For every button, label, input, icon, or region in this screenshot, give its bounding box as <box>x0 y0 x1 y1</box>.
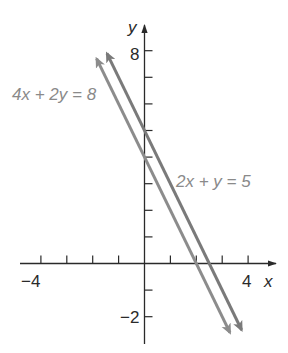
y-tick-label-neg2: −2 <box>120 308 139 327</box>
equation-label-2x-y-5: 2x + y = 5 <box>175 172 251 191</box>
x-axis-label: x <box>263 272 273 291</box>
equation-label-4x-2y-8: 4x + 2y = 8 <box>12 85 97 104</box>
y-tick-label-8: 8 <box>130 45 139 64</box>
y-axis-ticks <box>145 51 153 317</box>
series-line-2 <box>107 53 242 330</box>
x-tick-label-neg4: −4 <box>21 272 40 291</box>
y-axis-label: y <box>127 18 138 37</box>
coordinate-plane: y 8 −2 −4 4 x 4x + 2y = 8 2x + y = 5 <box>0 0 288 353</box>
series-line-1 <box>97 59 230 333</box>
series-lines <box>97 53 242 332</box>
x-tick-label-4: 4 <box>242 272 251 291</box>
